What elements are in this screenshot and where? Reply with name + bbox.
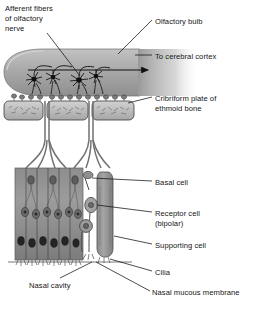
- label-cribriform-plate: Cribriform plate of: [155, 94, 216, 103]
- label-afferent-fibers: Afferent fibers: [5, 4, 53, 13]
- label-olfactory-bulb: Olfactory bulb: [155, 17, 203, 26]
- label-nasal-mucous-membrane: Nasal mucous membrane: [152, 288, 240, 297]
- cribriform-plate-bone: [4, 101, 134, 120]
- label-basal-cell: Basal cell: [155, 178, 188, 187]
- olfactory-epithelium: [15, 168, 83, 260]
- detail-receptor-cell: [83, 171, 97, 260]
- olfactory-system-diagram: [0, 0, 266, 311]
- label-to-cerebral-cortex: To cerebral cortex: [155, 52, 216, 61]
- label-afferent-fibers-line2: of olfactory: [5, 14, 43, 23]
- label-nasal-cavity: Nasal cavity: [29, 281, 71, 290]
- label-receptor-cell-line2: (bipolar): [155, 219, 183, 228]
- label-supporting-cell: Supporting cell: [155, 241, 206, 250]
- label-cribriform-plate-line2: ethmoid bone: [155, 104, 202, 113]
- detail-basal-cell: [80, 220, 93, 252]
- detail-supporting-cell: [97, 172, 113, 257]
- label-receptor-cell: Receptor cell: [155, 209, 200, 218]
- label-afferent-fibers-line3: nerve: [5, 24, 24, 33]
- label-cilia: Cilia: [155, 268, 170, 277]
